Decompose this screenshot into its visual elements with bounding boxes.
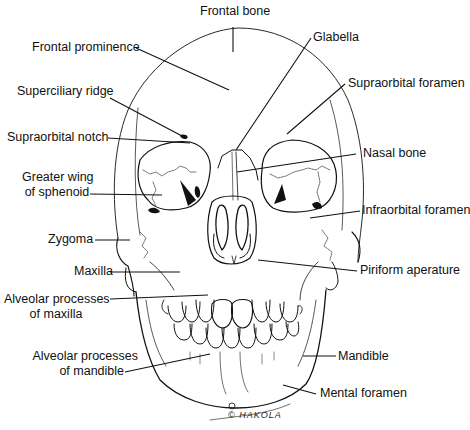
leader-nasal-bone (237, 154, 356, 172)
label-supraorbital-notch: Supraorbital notch (7, 130, 108, 145)
label-alveolar-mandible-line1: Alveolar processes (20, 349, 138, 364)
label-nasal-bone: Nasal bone (363, 146, 426, 161)
label-greater-wing-of-sphenoid: Greater wing of sphenoid (22, 170, 92, 200)
label-alveolar-processes-mandible: Alveolar processes of mandible (20, 349, 138, 379)
leader-alveolar-maxilla (110, 295, 208, 299)
label-zygoma: Zygoma (48, 232, 93, 247)
leader-frontal-prominence (136, 48, 229, 90)
label-mandible: Mandible (338, 349, 389, 364)
leader-mental-foramen (283, 385, 316, 394)
label-mental-foramen: Mental foramen (320, 386, 407, 401)
leader-piriform (258, 260, 357, 271)
label-maxilla: Maxilla (74, 264, 113, 279)
label-supraorbital-foramen: Supraorbital foramen (348, 76, 465, 91)
label-glabella: Glabella (313, 30, 359, 45)
label-frontal-bone: Frontal bone (200, 4, 270, 19)
leader-greater-wing (90, 194, 162, 195)
artist-signature: © HAKOLA (228, 410, 282, 420)
leader-supraorbital-notch (108, 138, 190, 143)
label-alveolar-mandible-line2: of mandible (20, 364, 138, 379)
label-alveolar-processes-maxilla: Alveolar processes of maxilla (4, 292, 108, 322)
left-orbital-fissure (180, 180, 196, 206)
label-frontal-prominence: Frontal prominence (32, 40, 140, 55)
leader-superciliary-ridge (110, 98, 182, 136)
label-greater-wing-line2: of sphenoid (22, 185, 92, 200)
leader-infraorbital-foramen (310, 211, 360, 218)
label-alveolar-maxilla-line1: Alveolar processes (4, 292, 108, 307)
label-greater-wing-line1: Greater wing (22, 170, 92, 185)
label-infraorbital-foramen: Infraorbital foramen (362, 203, 470, 218)
label-piriform-aperature: Piriform aperature (360, 263, 460, 278)
label-alveolar-maxilla-line2: of maxilla (4, 307, 108, 322)
label-superciliary-ridge: Superciliary ridge (17, 84, 114, 99)
right-orbital-fissure (274, 184, 286, 204)
leader-glabella (236, 38, 311, 150)
